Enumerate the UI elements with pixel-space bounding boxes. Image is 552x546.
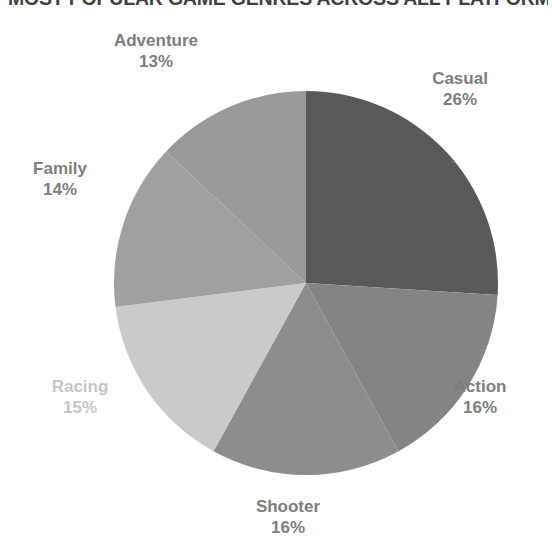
slice-pct-adventure: 13% [88,51,224,72]
pie-chart-figure: MOST POPULAR GAME GENRES ACROSS ALL PLAT… [0,0,552,546]
slice-label-action: Action 16% [424,376,536,418]
slice-name-racing: Racing [52,377,109,396]
slice-label-shooter: Shooter 16% [220,496,356,538]
slice-name-family: Family [33,159,87,178]
slice-name-adventure: Adventure [114,31,198,50]
slice-pct-family: 14% [2,179,118,200]
slice-pct-shooter: 16% [220,517,356,538]
slice-name-shooter: Shooter [256,497,320,516]
slice-name-casual: Casual [432,69,488,88]
slice-name-action: Action [454,377,507,396]
slice-label-casual: Casual 26% [400,68,520,110]
slice-label-family: Family 14% [2,158,118,200]
slice-pct-casual: 26% [400,89,520,110]
pie-slice-casual [306,91,498,295]
slice-pct-action: 16% [424,397,536,418]
slice-pct-racing: 15% [22,397,138,418]
slice-label-adventure: Adventure 13% [88,30,224,72]
slice-label-racing: Racing 15% [22,376,138,418]
